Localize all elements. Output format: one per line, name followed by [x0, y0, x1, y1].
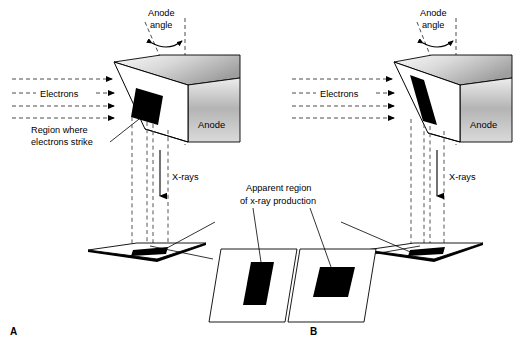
figure-root: Anode angle Anode Electrons Region where… — [0, 0, 523, 350]
anode-label-a: Anode — [198, 119, 225, 130]
anode-side-face-b — [460, 78, 512, 142]
anode-label-b: Anode — [470, 119, 497, 130]
detail-square-b — [288, 249, 376, 322]
line-focus-diagram: Anode angle Anode Electrons Region where… — [0, 0, 523, 350]
electrons-label-a: Electrons — [40, 89, 79, 99]
panel-letter-b: B — [310, 326, 317, 337]
region-strike-label-line2-a: electrons strike — [31, 137, 93, 147]
region-strike-label-line1-a: Region where — [31, 125, 88, 135]
electrons-label-b: Electrons — [320, 89, 359, 99]
anode-side-face-a — [188, 78, 240, 142]
apparent-region-label-line1: Apparent region — [246, 183, 311, 193]
apparent-spot-detail-b — [313, 267, 355, 297]
xrays-label-a: X-rays — [172, 172, 199, 182]
anode-angle-label-line2-b: angle — [422, 20, 444, 30]
anode-angle-label-line1-b: Anode — [420, 8, 447, 18]
xrays-label-b: X-rays — [449, 172, 476, 182]
detail-square-a — [209, 249, 297, 322]
apparent-region-label-line2: of x-ray production — [240, 196, 316, 206]
anode-angle-label-line2-a: angle — [150, 20, 172, 30]
panel-letter-a: A — [10, 326, 17, 337]
anode-angle-label-line1-a: Anode — [148, 8, 175, 18]
